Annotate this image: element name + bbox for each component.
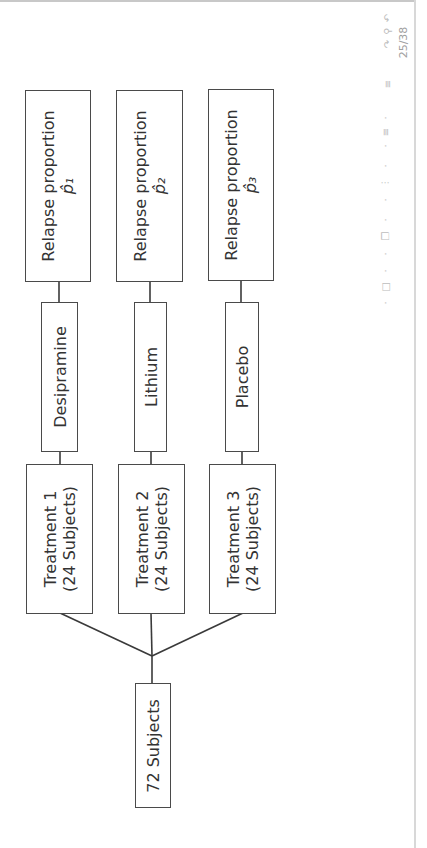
align-icon[interactable]: ≡: [382, 78, 394, 90]
outcome-1-label: Relapse proportion: [39, 110, 58, 261]
outcome-3-box: Relapse proportion p̂₃: [208, 89, 274, 281]
drug-desipramine-box: Desipramine: [41, 302, 78, 452]
frame-icon[interactable]: ❐: [380, 230, 392, 242]
treatment-2-count: (24 Subjects): [152, 486, 171, 592]
treatment-2-box: Treatment 2 (24 Subjects): [118, 464, 185, 614]
outcome-3-label: Relapse proportion: [222, 109, 241, 260]
outcome-2-label: Relapse proportion: [131, 110, 150, 261]
section-prev-icon[interactable]: ·: [380, 160, 392, 172]
root-subjects-label: 72 Subjects: [144, 699, 163, 793]
treatment-1-box: Treatment 1 (24 Subjects): [26, 464, 93, 614]
drug-lithium-label: Lithium: [141, 347, 160, 407]
treatment-3-box: Treatment 3 (24 Subjects): [209, 464, 276, 614]
subsection-next-icon[interactable]: ·: [380, 140, 392, 152]
treatment-3-label: Treatment 3: [224, 486, 243, 592]
drug-placebo-label: Placebo: [233, 346, 252, 408]
outcome-2-box: Relapse proportion p̂₂: [116, 90, 183, 282]
treatment-1-count: (24 Subjects): [60, 486, 79, 592]
page-number: 25/38: [397, 27, 410, 59]
treatment-1-label: Treatment 1: [41, 486, 60, 592]
outcome-1-estimate: p̂₁: [58, 110, 77, 261]
section-next-icon[interactable]: ·: [380, 194, 392, 206]
forward-icon[interactable]: ↷: [382, 38, 394, 50]
back-icon[interactable]: ↶: [382, 12, 394, 24]
slide-icon[interactable]: □: [380, 281, 392, 293]
slide-prev-icon[interactable]: ·: [380, 265, 392, 277]
frame-prev-icon[interactable]: ·: [380, 214, 392, 226]
subsection-prev-icon[interactable]: ·: [380, 112, 392, 124]
drug-desipramine-label: Desipramine: [50, 326, 69, 428]
outcome-3-estimate: p̂₃: [241, 109, 260, 260]
search-icon[interactable]: ⚲: [382, 25, 394, 37]
treatment-3-count: (24 Subjects): [243, 486, 262, 592]
treatment-2-label: Treatment 2: [133, 486, 152, 592]
drug-placebo-box: Placebo: [225, 302, 259, 452]
subsection-icon[interactable]: ≡: [380, 126, 392, 138]
slide-next-icon[interactable]: ·: [380, 297, 392, 309]
drug-lithium-box: Lithium: [134, 302, 167, 452]
outcome-1-box: Relapse proportion p̂₁: [25, 90, 91, 282]
outcome-2-estimate: p̂₂: [150, 110, 169, 261]
root-subjects-box: 72 Subjects: [135, 683, 171, 808]
frame-next-icon[interactable]: ·: [380, 248, 392, 260]
section-icon[interactable]: ⫶: [380, 176, 392, 188]
